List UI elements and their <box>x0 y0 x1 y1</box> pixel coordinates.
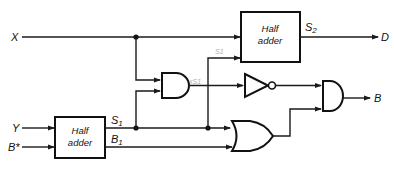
or-gate <box>232 121 273 151</box>
output-label-b1: B1 <box>111 133 123 147</box>
and-gate-1 <box>162 73 189 98</box>
output-label-d: D <box>381 31 389 43</box>
circuit-diagram: X Y B* Half adder S2 D Half adder S1 B1 … <box>0 0 394 170</box>
annotation-s1: S1 <box>215 48 224 55</box>
input-label-x: X <box>10 31 19 43</box>
not-gate <box>245 74 276 97</box>
half-adder-bottom-label-2: adder <box>68 137 93 148</box>
half-adder-top-label-2: adder <box>258 35 283 46</box>
annotation-xs1: xS1 <box>188 78 201 85</box>
output-label-s1: S1 <box>111 114 123 128</box>
output-label-s2: S2 <box>305 21 317 35</box>
half-adder-bottom: Half adder <box>55 117 105 158</box>
input-label-y: Y <box>12 122 20 134</box>
output-label-b: B <box>374 92 381 104</box>
inverter-bubble <box>269 82 276 89</box>
and-gate-2 <box>323 81 343 111</box>
half-adder-bottom-label-1: Half <box>72 125 90 136</box>
half-adder-top-label-1: Half <box>262 23 280 34</box>
wire-or-to-and2 <box>273 109 321 136</box>
half-adder-top: Half adder <box>241 12 300 62</box>
input-label-b-star: B* <box>8 141 20 153</box>
